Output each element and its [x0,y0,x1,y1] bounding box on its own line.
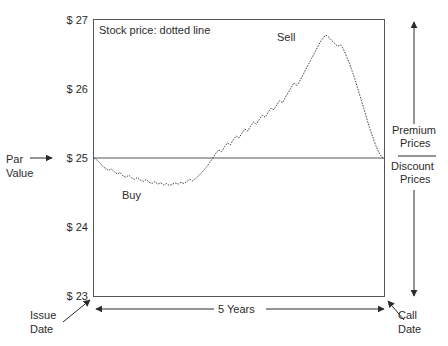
chart-figure: Stock price: dotted line $ 27 $ 26 $ 25 … [0,0,448,346]
issue-date-leader [63,300,90,322]
chart-vector-overlay [0,0,448,346]
stock-price-series [94,35,384,185]
call-date-leader [388,301,404,320]
